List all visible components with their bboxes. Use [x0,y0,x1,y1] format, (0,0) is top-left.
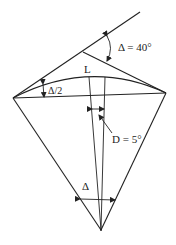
degree-leader-line [99,115,112,133]
half-angle-label: Δ/2 [48,85,62,96]
half-angle-arrow [43,84,44,97]
deflection-angle-arc [107,36,111,61]
radius-right-line [101,93,166,230]
center-point [100,229,102,231]
central-angle-label: Δ [82,180,89,192]
long-chord-line [13,93,166,98]
degree-of-curve-label: D = 5° [112,133,142,145]
radius-left-line [13,98,101,230]
d-radius-left-line [89,77,101,230]
deflection-angle-label: Δ = 40° [118,41,152,53]
forward-tangent-line [83,52,166,93]
d-radius-right-line [101,77,105,230]
curve-diagram: Δ = 40° Δ/2 L D = 5° Δ [0,0,176,245]
length-label: L [84,63,91,75]
central-angle-arrow [80,199,115,200]
back-tangent-line [13,12,140,98]
